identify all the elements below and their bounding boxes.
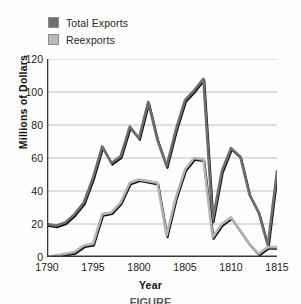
y-axis-label: Millions of Dollars xyxy=(17,27,29,177)
chart-legend: Total Exports Reexports xyxy=(48,14,128,48)
series-line-total-exports xyxy=(47,79,277,246)
x-axis-ticks: 1790 1795 1800 1805 1810 1815 xyxy=(0,261,301,277)
y-tick-20: 20 xyxy=(31,218,43,230)
x-tick-1795: 1795 xyxy=(81,261,104,273)
y-tick-80: 80 xyxy=(31,119,43,131)
legend-swatch-total-exports xyxy=(48,17,59,28)
x-tick-1790: 1790 xyxy=(35,261,58,273)
figure-caption: FIGURE xyxy=(0,296,301,304)
chart-plot-area xyxy=(47,59,277,257)
line-chart-svg xyxy=(47,59,277,257)
x-tick-1810: 1810 xyxy=(219,261,242,273)
series-lines xyxy=(47,79,277,257)
x-axis-label: Year xyxy=(0,279,301,291)
legend-label-total-exports: Total Exports xyxy=(66,17,128,29)
legend-item-total-exports: Total Exports xyxy=(48,14,128,31)
x-tick-1805: 1805 xyxy=(173,261,196,273)
legend-swatch-reexports xyxy=(48,34,59,45)
y-tick-40: 40 xyxy=(31,185,43,197)
x-tick-1815: 1815 xyxy=(265,261,288,273)
legend-label-reexports: Reexports xyxy=(66,34,115,46)
y-tick-60: 60 xyxy=(31,152,43,164)
x-tick-1800: 1800 xyxy=(127,261,150,273)
legend-item-reexports: Reexports xyxy=(48,31,128,48)
figure-container: Total Exports Reexports 120 100 80 60 40… xyxy=(0,0,301,304)
gridlines xyxy=(47,59,277,224)
